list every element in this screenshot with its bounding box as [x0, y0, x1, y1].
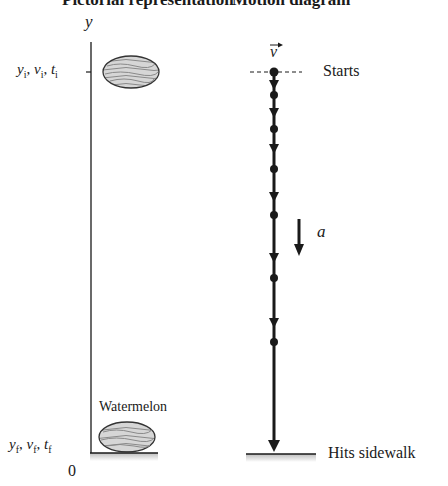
watermelon-label: Watermelon	[99, 399, 167, 415]
acceleration-arrow-icon	[294, 219, 304, 256]
acceleration-label: a	[317, 222, 326, 242]
motion-trajectory	[268, 68, 280, 453]
y-axis-label: y	[85, 12, 93, 32]
velocity-label: v	[270, 43, 277, 61]
y-axis	[86, 42, 91, 453]
diagram-canvas	[0, 0, 448, 486]
initial-conditions-label: yi, vi, ti	[17, 61, 58, 80]
watermelon-initial-icon	[103, 56, 159, 88]
final-conditions-label: yf, vf, tf	[9, 436, 52, 455]
origin-label: 0	[68, 462, 76, 480]
watermelon-final-icon	[99, 422, 155, 452]
ground-left	[90, 453, 158, 461]
hits-sidewalk-label: Hits sidewalk	[328, 444, 416, 462]
starts-label: Starts	[323, 62, 359, 80]
ground-right	[246, 454, 316, 462]
